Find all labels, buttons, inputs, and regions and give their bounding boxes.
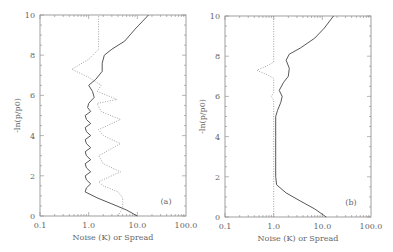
y-tick-label: 2: [215, 173, 220, 182]
x-tick-label: 10.0: [313, 222, 331, 231]
plot-frame: [40, 15, 186, 216]
x-tick-label: 10.0: [128, 221, 146, 230]
x-tick-label: 0.1: [34, 221, 47, 230]
y-axis-label: -ln(p/p0): [13, 98, 22, 133]
spread-line: [257, 16, 274, 217]
x-tick-label: 1.0: [267, 222, 280, 231]
figure: 0.11.010.0100.00246810Noise (K) or Sprea…: [0, 0, 393, 252]
spread-line: [72, 15, 123, 216]
y-tick-label: 10: [210, 12, 220, 21]
y-axis-label: -ln(p/p0): [198, 99, 207, 134]
y-tick-label: 8: [215, 52, 220, 61]
y-tick-label: 8: [30, 51, 35, 60]
x-tick-label: 0.1: [219, 222, 232, 231]
x-tick-label: 100.0: [175, 221, 198, 230]
plot-frame: [225, 16, 371, 217]
y-tick-label: 2: [30, 172, 35, 181]
panel-a: 0.11.010.0100.00246810Noise (K) or Sprea…: [13, 11, 197, 242]
x-tick-label: 100.0: [360, 222, 383, 231]
x-axis-label: Noise (K) or Spread: [73, 233, 154, 242]
panel-b: 0.11.010.0100.00246810Noise (K) or Sprea…: [198, 12, 382, 243]
y-tick-label: 10: [25, 11, 35, 20]
x-tick-label: 1.0: [82, 221, 95, 230]
y-tick-label: 4: [30, 132, 35, 141]
panel-label: (a): [160, 197, 171, 206]
y-tick-label: 6: [30, 91, 35, 100]
y-tick-label: 0: [30, 212, 35, 221]
x-axis-label: Noise (K) or Spread: [258, 234, 339, 243]
noise-line: [85, 15, 148, 216]
noise-line: [276, 16, 334, 217]
y-tick-label: 0: [215, 213, 220, 222]
y-tick-label: 6: [215, 92, 220, 101]
y-tick-label: 4: [215, 133, 220, 142]
panel-label: (b): [345, 198, 356, 207]
